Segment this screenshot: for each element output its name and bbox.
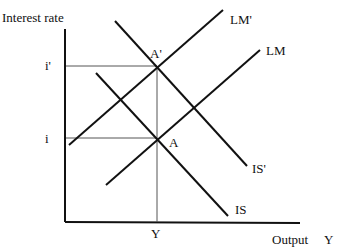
point-a: A [169, 135, 179, 150]
x-axis [65, 222, 300, 223]
tick-i-prime: i' [45, 58, 51, 73]
point-a-prime: A' [150, 46, 162, 61]
x-axis-symbol: Y [324, 232, 334, 247]
is-lm-diagram: Interest rate i' i Y Output Y LM' LM IS'… [0, 0, 341, 251]
label-lm: LM [266, 43, 286, 58]
label-is-prime: IS' [252, 161, 266, 176]
x-axis-label: Output [272, 232, 309, 247]
lm-prime-curve [69, 10, 223, 145]
label-is: IS [235, 202, 247, 217]
y-axis-label: Interest rate [2, 10, 64, 25]
lm-curve [106, 50, 260, 185]
tick-y: Y [151, 226, 161, 241]
tick-i: i [45, 131, 49, 146]
is-prime-curve [115, 21, 247, 166]
label-lm-prime: LM' [230, 12, 252, 27]
